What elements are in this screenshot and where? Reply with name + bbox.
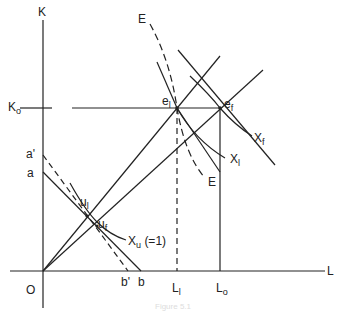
xu-label: Xu (=1) — [128, 235, 166, 247]
diagram: K L O Ko a' a b' b Ll Lo el ef ul uf Xf … — [0, 0, 341, 318]
l-axis-label: L — [327, 265, 334, 277]
k0-label: Ko — [8, 101, 21, 113]
lo-label: Lo — [216, 282, 228, 294]
xl-label: Xl — [230, 153, 240, 165]
ul-label: ul — [80, 196, 89, 208]
e-curve-label-top: E — [138, 13, 146, 25]
e-curve-label-bottom: E — [208, 176, 216, 188]
b-prime-label: b' — [121, 276, 130, 288]
l1-label: Ll — [172, 282, 181, 294]
diagram-canvas — [0, 0, 341, 318]
el-label: el — [162, 95, 171, 107]
isoquant-xu — [70, 183, 126, 240]
b-label: b — [138, 276, 145, 288]
origin-label: O — [26, 284, 35, 296]
isoquant-xl — [177, 108, 225, 158]
k-axis-label: K — [38, 6, 46, 18]
a-label: a — [27, 167, 34, 179]
e-curve — [150, 24, 205, 178]
figure-caption: Figure 5.1 — [155, 302, 191, 311]
ef-label: ef — [224, 98, 233, 110]
xf-label: Xf — [254, 132, 265, 144]
a-prime-b-prime-line — [43, 155, 128, 271]
uf-label: uf — [98, 218, 107, 230]
a-prime-label: a' — [26, 148, 35, 160]
